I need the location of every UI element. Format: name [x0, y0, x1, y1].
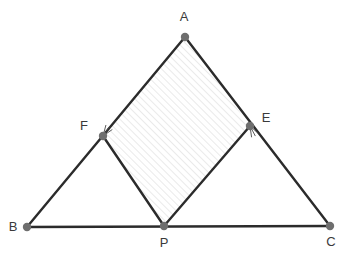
geometry-canvas: ABCFEP: [0, 0, 350, 263]
vertex-point-f: [99, 132, 107, 140]
vertex-label-b: B: [9, 219, 18, 234]
vertex-label-p: P: [160, 235, 169, 250]
vertex-label-f: F: [80, 118, 88, 133]
vertex-point-p: [160, 222, 168, 230]
shaded-rhombus-afpe: [103, 37, 250, 226]
vertex-label-c: C: [326, 234, 335, 249]
vertex-point-c: [326, 222, 334, 230]
vertex-point-e: [246, 122, 254, 130]
vertex-label-e: E: [262, 110, 271, 125]
geometry-figure: ABCFEP: [0, 0, 350, 263]
vertex-point-b: [23, 223, 31, 231]
vertex-point-a: [181, 33, 189, 41]
vertex-label-a: A: [180, 9, 189, 24]
congruence-tick-e-stroke: [250, 129, 251, 137]
segment-bc: [27, 226, 330, 227]
